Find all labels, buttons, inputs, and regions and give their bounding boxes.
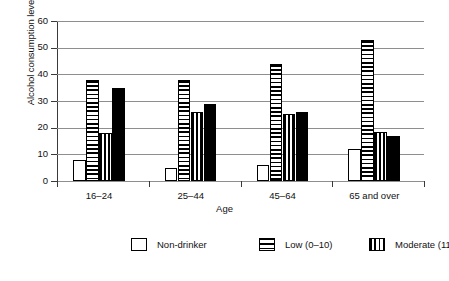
x-tick-mark	[424, 181, 425, 187]
y-tick-label-50: 50	[22, 41, 48, 52]
bar-group	[241, 21, 333, 181]
legend-label: Low (0–10)	[285, 239, 333, 250]
bar	[283, 114, 296, 181]
x-tick-mark	[332, 181, 333, 187]
alcohol-consumption-bar-chart: Alcohol consumption level 0102030405060 …	[0, 0, 449, 281]
bar	[191, 112, 204, 181]
x-tick-label: 45–64	[238, 190, 328, 201]
bar	[86, 80, 99, 181]
x-tick-label: 65 and over	[329, 190, 419, 201]
bar	[296, 112, 309, 181]
x-tick-mark	[241, 181, 242, 187]
bar	[348, 149, 361, 181]
legend-item: Moderate (11–21)	[369, 238, 449, 251]
bar	[99, 133, 112, 181]
y-tick-label-0: 0	[22, 175, 48, 186]
bar	[165, 168, 178, 181]
x-tick-mark	[57, 181, 58, 187]
bar	[178, 80, 191, 181]
x-tick-label: 16–24	[54, 190, 144, 201]
bar	[204, 104, 217, 181]
y-tick-label-20: 20	[22, 121, 48, 132]
bar	[270, 64, 283, 181]
legend-swatch	[131, 238, 147, 251]
legend-swatch	[259, 238, 275, 251]
y-tick-label-10: 10	[22, 148, 48, 159]
bar-group	[57, 21, 149, 181]
bar	[374, 132, 387, 181]
legend-item: Non-drinker	[131, 238, 259, 251]
x-axis-title: Age	[0, 203, 449, 214]
bar	[387, 136, 400, 181]
y-tick-label-40: 40	[22, 68, 48, 79]
bar	[112, 88, 125, 181]
bar-group	[149, 21, 241, 181]
legend-label: Non-drinker	[157, 239, 207, 250]
legend-swatch	[369, 238, 385, 251]
x-tick-mark	[149, 181, 150, 187]
y-tick-label-60: 60	[22, 15, 48, 26]
chart-legend: Non-drinkerLow (0–10)Moderate (11–21)Hig…	[131, 234, 449, 254]
bar-group	[332, 21, 424, 181]
bar	[361, 40, 374, 181]
bar	[257, 165, 270, 181]
legend-label: Moderate (11–21)	[395, 239, 449, 250]
plot-area	[57, 21, 424, 181]
x-tick-label: 25–44	[146, 190, 236, 201]
legend-item: Low (0–10)	[259, 238, 369, 251]
y-tick-label-30: 30	[22, 95, 48, 106]
bar	[73, 160, 86, 181]
